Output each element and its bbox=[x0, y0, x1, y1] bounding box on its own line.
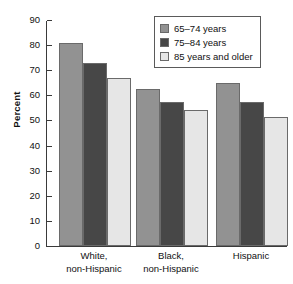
bar bbox=[240, 102, 264, 246]
bar-group bbox=[59, 21, 131, 246]
legend-item: 75–84 years bbox=[160, 35, 253, 49]
x-axis-labels: White,non-HispanicBlack,non-HispanicHisp… bbox=[46, 250, 287, 284]
y-tick-label: 80 bbox=[29, 39, 40, 50]
y-tick-mark bbox=[47, 246, 52, 247]
y-tick-label: 50 bbox=[29, 114, 40, 125]
x-axis-label: Hispanic bbox=[193, 250, 293, 263]
legend-swatch-icon bbox=[160, 24, 169, 33]
y-tick-label: 20 bbox=[29, 190, 40, 201]
y-tick-label: 70 bbox=[29, 64, 40, 75]
legend-swatch-icon bbox=[160, 52, 169, 61]
y-axis-title: Percent bbox=[11, 70, 22, 150]
legend-item-label: 85 years and older bbox=[174, 51, 253, 62]
x-axis-label-line: non-Hispanic bbox=[113, 263, 229, 276]
x-axis-label-line: Hispanic bbox=[193, 250, 293, 263]
bar bbox=[59, 43, 83, 246]
legend-item: 85 years and older bbox=[160, 49, 253, 63]
bar bbox=[216, 83, 240, 246]
y-tick-label: 30 bbox=[29, 165, 40, 176]
y-tick-label: 10 bbox=[29, 215, 40, 226]
y-tick-label: 90 bbox=[29, 14, 40, 25]
bar bbox=[83, 63, 107, 246]
legend-item: 65–74 years bbox=[160, 21, 253, 35]
bar bbox=[136, 89, 160, 246]
bar-chart: Percent 0102030405060708090 White,non-Hi… bbox=[0, 0, 293, 284]
bar bbox=[264, 117, 288, 246]
legend: 65–74 years 75–84 years 85 years and old… bbox=[154, 16, 261, 68]
legend-item-label: 75–84 years bbox=[174, 37, 226, 48]
bar bbox=[107, 78, 131, 246]
bar bbox=[184, 110, 208, 246]
y-tick-label: 60 bbox=[29, 89, 40, 100]
legend-item-label: 65–74 years bbox=[174, 23, 226, 34]
y-tick-label: 40 bbox=[29, 140, 40, 151]
bar bbox=[160, 102, 184, 246]
legend-swatch-icon bbox=[160, 38, 169, 47]
